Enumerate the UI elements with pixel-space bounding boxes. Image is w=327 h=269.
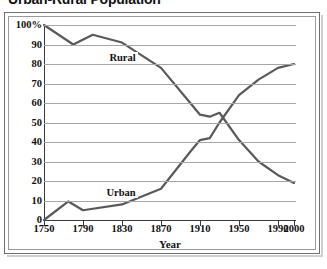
x-axis-tick-label: 1910 [190, 223, 211, 234]
y-axis-tick-label: 60 [32, 98, 43, 108]
chart-root: Urban-Rural Population 100%9080706050403… [0, 0, 327, 269]
grid-line [44, 201, 296, 202]
x-axis-tick-label: 1790 [73, 223, 94, 234]
grid-line [44, 123, 296, 124]
y-axis-tick-label: 50 [32, 118, 43, 128]
chart-title: Urban-Rural Population [8, 0, 161, 7]
y-axis-tick-label: 80 [32, 59, 43, 69]
grid-line [44, 181, 296, 182]
grid-line [44, 45, 296, 46]
plot-area [44, 25, 296, 220]
grid-line [44, 142, 296, 143]
series-label-urban: Urban [104, 187, 137, 198]
y-axis-tick-label: 30 [32, 157, 43, 167]
y-axis-tick-label: 100% [16, 20, 42, 30]
x-axis-tick-label: 1750 [34, 223, 55, 234]
grid-line [44, 103, 296, 104]
y-axis-tick-label: 10 [32, 196, 43, 206]
y-axis-tick-label: 40 [32, 137, 43, 147]
y-axis-tick-label: 70 [32, 79, 43, 89]
grid-line [44, 162, 296, 163]
series-label-rural: Rural [107, 52, 137, 63]
grid-line [44, 84, 296, 85]
x-axis-title: Year [159, 238, 181, 250]
x-axis-tick-label: 1830 [112, 223, 133, 234]
grid-line [44, 64, 296, 65]
y-axis-labels: 100%9080706050403020100 [0, 25, 42, 221]
x-axis-tick-label: 2000 [284, 223, 305, 234]
x-axis-tick-label: 1870 [151, 223, 172, 234]
x-axis-tick-label: 1950 [229, 223, 250, 234]
y-axis-tick-label: 90 [32, 40, 43, 50]
grid-line [44, 25, 296, 26]
y-axis-tick-label: 20 [32, 176, 43, 186]
